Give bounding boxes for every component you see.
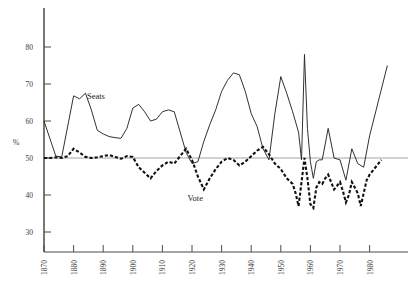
series-annotation-vote: Vote (188, 193, 204, 203)
chart-canvas: 304050607080%187018801890190019101920193… (0, 0, 416, 286)
chart-background (0, 0, 416, 286)
y-tick-label-60: 60 (26, 117, 34, 126)
election-seats-vote-chart: 304050607080%187018801890190019101920193… (0, 0, 416, 286)
x-tick-label-1970: 1970 (336, 260, 345, 275)
x-tick-label-1960: 1960 (306, 260, 315, 275)
x-tick-label-1940: 1940 (247, 260, 256, 275)
y-tick-label-50: 50 (26, 154, 34, 163)
x-tick-label-1890: 1890 (99, 260, 108, 275)
y-tick-label-30: 30 (26, 228, 34, 237)
x-tick-label-1910: 1910 (158, 260, 167, 275)
x-tick-label-1930: 1930 (218, 260, 227, 275)
series-annotation-seats: Seats (87, 91, 105, 101)
y-axis-title: % (13, 138, 20, 147)
x-tick-label-1900: 1900 (129, 260, 138, 275)
x-tick-label-1920: 1920 (188, 260, 197, 275)
y-tick-label-40: 40 (26, 191, 34, 200)
x-tick-label-1950: 1950 (277, 260, 286, 275)
x-tick-label-1870: 1870 (40, 260, 49, 275)
x-tick-label-1980: 1980 (366, 260, 375, 275)
x-tick-label-1880: 1880 (70, 260, 79, 275)
y-tick-label-70: 70 (26, 80, 34, 89)
y-tick-label-80: 80 (26, 43, 34, 52)
